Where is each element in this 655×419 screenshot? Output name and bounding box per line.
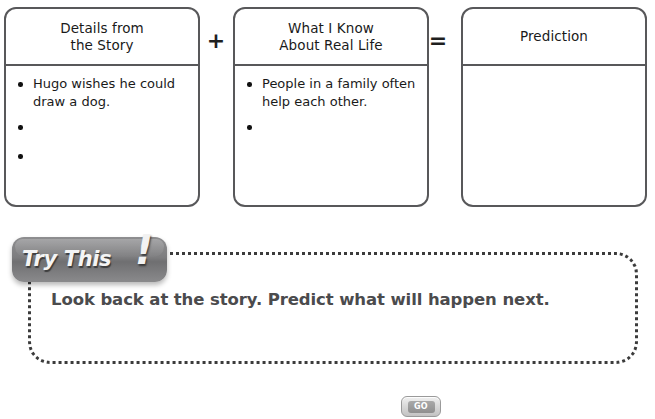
list-item[interactable] bbox=[16, 147, 190, 165]
list-item[interactable] bbox=[245, 118, 419, 136]
chart-box-header-label: What I Know About Real Life bbox=[279, 20, 382, 54]
go-button-label: GO bbox=[414, 402, 428, 411]
go-button-inner: GO bbox=[408, 401, 435, 413]
bullet-list: Hugo wishes he could draw a dog. bbox=[16, 75, 190, 165]
chart-box-header: What I Know About Real Life bbox=[235, 9, 427, 66]
exclamation-icon: ! bbox=[135, 228, 153, 272]
equals-operator-icon: = bbox=[423, 28, 453, 54]
chart-box-header: Details from the Story bbox=[6, 9, 198, 66]
chart-box-header: Prediction bbox=[463, 9, 645, 66]
try-this-section: Look back at the story. Predict what wil… bbox=[0, 232, 655, 377]
list-item-text: People in a family often help each other… bbox=[262, 76, 415, 109]
list-item[interactable] bbox=[16, 118, 190, 136]
try-this-prompt: Look back at the story. Predict what wil… bbox=[51, 290, 631, 309]
try-this-badge-label: Try This bbox=[22, 246, 111, 272]
chart-box-header-label: Details from the Story bbox=[60, 20, 144, 54]
plus-operator-icon: + bbox=[201, 28, 231, 54]
go-button[interactable]: GO bbox=[401, 396, 441, 417]
list-item-text: Hugo wishes he could draw a dog. bbox=[33, 76, 175, 109]
list-item[interactable]: People in a family often help each other… bbox=[245, 75, 419, 111]
list-item[interactable]: Hugo wishes he could draw a dog. bbox=[16, 75, 190, 111]
prediction-chart: Details from the Story Hugo wishes he co… bbox=[0, 0, 655, 225]
bullet-list: People in a family often help each other… bbox=[245, 75, 419, 136]
chart-box-what-i-know[interactable]: What I Know About Real Life People in a … bbox=[233, 7, 429, 207]
chart-box-prediction[interactable]: Prediction bbox=[461, 7, 647, 207]
chart-box-header-label: Prediction bbox=[520, 28, 588, 45]
chart-box-body[interactable]: People in a family often help each other… bbox=[235, 66, 427, 136]
try-this-badge: Try This ! bbox=[12, 237, 167, 282]
chart-box-details-from-story[interactable]: Details from the Story Hugo wishes he co… bbox=[4, 7, 200, 207]
worksheet-page: Details from the Story Hugo wishes he co… bbox=[0, 0, 655, 419]
chart-box-body[interactable]: Hugo wishes he could draw a dog. bbox=[6, 66, 198, 165]
chart-box-body[interactable] bbox=[463, 66, 645, 75]
